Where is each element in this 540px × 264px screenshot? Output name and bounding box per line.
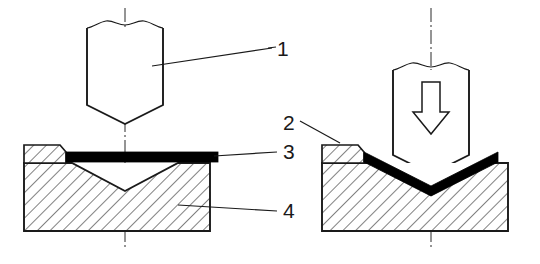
v-die-right <box>322 163 508 231</box>
v-bending-diagram <box>0 0 540 264</box>
figure-root: 1 2 3 4 <box>0 0 540 264</box>
leader-line-1 <box>152 48 272 66</box>
punch-left <box>87 21 163 124</box>
sheet-metal-blank-left <box>66 152 218 162</box>
callout-label-3: 3 <box>283 141 295 162</box>
stage-before-bending <box>24 8 218 248</box>
punch-right <box>393 63 469 174</box>
callout-label-2: 2 <box>283 112 295 133</box>
back-stop-block-left <box>24 145 66 163</box>
leader-stub-1 <box>268 47 276 48</box>
leader-line-3 <box>214 152 277 156</box>
leader-line-2 <box>300 121 340 143</box>
back-stop-block-right <box>322 145 364 163</box>
callout-label-4: 4 <box>283 200 295 221</box>
stage-during-bending <box>322 8 508 248</box>
v-die-left <box>24 163 210 231</box>
callout-label-1: 1 <box>277 38 289 59</box>
